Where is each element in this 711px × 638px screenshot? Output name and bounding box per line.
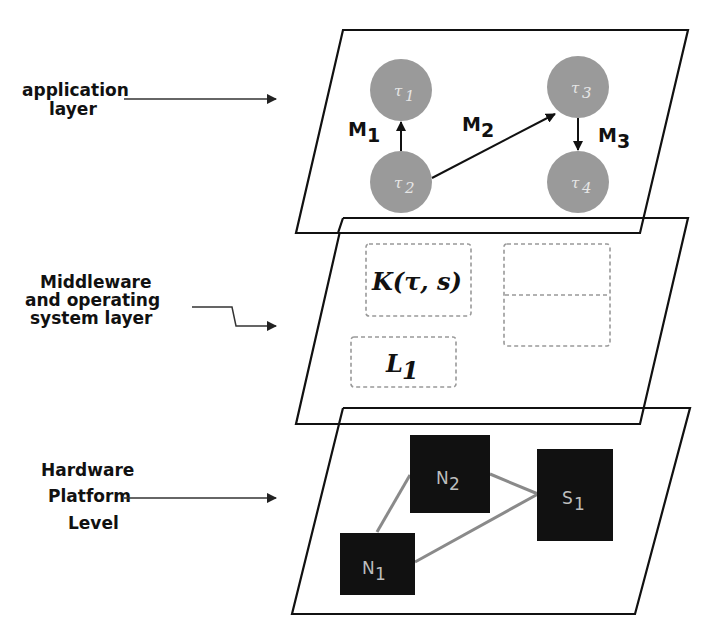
- message-label: M: [462, 113, 481, 135]
- task-t3: τ 3: [547, 56, 609, 118]
- application-layer-label: application layer: [22, 80, 276, 119]
- node-label: N: [362, 558, 375, 578]
- hardware-node-s1: S 1: [537, 449, 613, 541]
- label-line: Level: [68, 513, 119, 533]
- kernel-label: K(τ, s): [371, 267, 462, 296]
- task-label: τ: [571, 79, 580, 97]
- task-subscript: 2: [404, 179, 415, 197]
- message-label: M: [598, 124, 617, 146]
- node-subscript: 2: [449, 474, 460, 494]
- message-label: M: [348, 118, 367, 140]
- hardware-node-n1: N 1: [340, 533, 415, 595]
- message-subscript: 2: [481, 119, 494, 141]
- task-t2: τ 2: [370, 151, 432, 213]
- library-label: L: [385, 349, 403, 378]
- label-line: and operating: [25, 290, 160, 310]
- task-label: τ: [394, 174, 403, 192]
- label-line: Middleware: [40, 272, 152, 292]
- task-t1: τ 1: [370, 59, 432, 121]
- message-subscript: 3: [617, 130, 630, 152]
- hardware-node-n2: N 2: [410, 435, 490, 513]
- task-label: τ: [394, 82, 403, 100]
- task-subscript: 3: [582, 84, 592, 102]
- task-subscript: 1: [405, 87, 415, 105]
- label-line: Platform: [48, 486, 131, 506]
- label-line: application: [22, 80, 129, 100]
- middleware-plane: [296, 218, 688, 424]
- middleware-pointer-arrow: [192, 307, 276, 326]
- middleware-layer-label: Middleware and operating system layer: [25, 272, 276, 328]
- task-subscript: 4: [581, 179, 592, 197]
- task-t4: τ 4: [547, 151, 609, 213]
- hardware-level-label: Hardware Platform Level: [41, 460, 276, 533]
- task-label: τ: [571, 174, 580, 192]
- label-line: system layer: [30, 308, 153, 328]
- message-subscript: 1: [367, 124, 380, 146]
- label-line: Hardware: [41, 460, 134, 480]
- library-subscript: 1: [402, 356, 419, 385]
- layered-architecture-diagram: τ 1 τ 2 τ 3 τ 4 M 1 M 2 M 3 K(τ, s) L 1: [0, 0, 711, 638]
- node-subscript: 1: [375, 564, 386, 584]
- node-label: S: [562, 488, 573, 508]
- label-line: layer: [49, 99, 97, 119]
- node-label: N: [436, 468, 449, 488]
- node-subscript: 1: [574, 494, 585, 514]
